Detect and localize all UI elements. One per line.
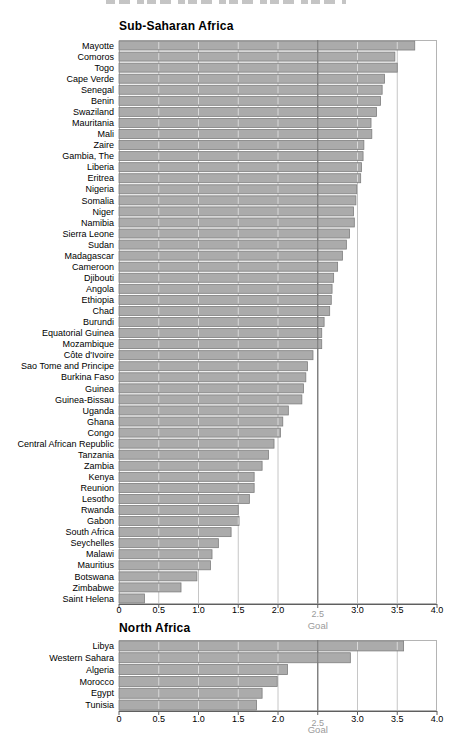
category-label: Senegal: [81, 85, 114, 95]
bar: [119, 41, 415, 50]
bar: [119, 340, 322, 349]
category-label: Rwanda: [81, 505, 114, 515]
bar: [119, 273, 334, 282]
goal-label: Goal: [308, 620, 328, 631]
category-label: Tunisia: [85, 700, 114, 710]
x-tick-label: 1.0: [192, 714, 205, 724]
x-tick-label: 2.0: [272, 714, 285, 724]
category-label: Seychelles: [70, 538, 114, 548]
category-label: Mauritius: [77, 560, 114, 570]
bar: [119, 130, 372, 139]
category-label: Western Sahara: [49, 653, 114, 663]
bar: [119, 494, 249, 503]
bar: [119, 362, 307, 371]
bar: [119, 561, 210, 570]
x-tick-label: 0: [116, 714, 121, 724]
category-label: Mayotte: [82, 41, 114, 51]
x-tick-label: 3.0: [351, 605, 364, 615]
bar: [119, 450, 268, 459]
bar: [119, 528, 231, 537]
goal-label: Goal: [308, 724, 328, 735]
x-tick-label: 3.5: [391, 605, 404, 615]
bar: [119, 251, 342, 260]
category-label: Libya: [92, 641, 114, 651]
bar: [119, 118, 371, 127]
category-label: Central African Republic: [17, 439, 114, 449]
category-label: Benin: [91, 96, 114, 106]
category-label: Ghana: [87, 417, 114, 427]
bar: [119, 163, 361, 172]
bar: [119, 641, 404, 651]
bar: [119, 63, 397, 72]
category-label: Equatorial Guinea: [42, 328, 114, 338]
bar: [119, 240, 346, 249]
category-label: Algeria: [86, 665, 114, 675]
category-label: Angola: [86, 284, 114, 294]
x-tick-label: 0: [116, 605, 121, 615]
category-label: Cape Verde: [66, 74, 114, 84]
category-label: Botswana: [74, 572, 114, 582]
category-label: Morocco: [79, 677, 114, 687]
category-label: Eritrea: [87, 173, 114, 183]
bar: [119, 96, 381, 105]
bar: [119, 483, 254, 492]
category-label: Congo: [87, 428, 114, 438]
x-tick-label: 3.5: [391, 714, 404, 724]
bar: [119, 306, 330, 315]
x-tick-label: 2.0: [272, 605, 285, 615]
x-tick-label: 0.5: [152, 714, 165, 724]
cropped-title-fragment: [106, 0, 346, 4]
category-label: Zimbabwe: [72, 583, 114, 593]
category-label: Burkina Faso: [61, 372, 114, 382]
category-label: Egypt: [91, 688, 115, 698]
category-label: Somalia: [81, 196, 114, 206]
bar: [119, 141, 364, 150]
category-label: Zaire: [93, 140, 114, 150]
category-label: Mali: [97, 129, 114, 139]
bar: [119, 384, 303, 393]
bar: [119, 572, 197, 581]
x-tick-label: 0.5: [152, 605, 165, 615]
category-label: Nigeria: [85, 184, 114, 194]
bar: [119, 395, 302, 404]
bar: [119, 52, 395, 61]
bar: [119, 174, 361, 183]
category-label: Chad: [92, 306, 114, 316]
bar: [119, 439, 274, 448]
bar: [119, 329, 322, 338]
category-label: Cameroon: [72, 262, 114, 272]
x-tick-label: 4.0: [431, 605, 444, 615]
bar: [119, 417, 283, 426]
bar: [119, 351, 313, 360]
category-label: Sudan: [88, 240, 114, 250]
x-tick-label: 1.0: [192, 605, 205, 615]
category-label: Saint Helena: [62, 594, 114, 604]
bar: [119, 406, 288, 415]
x-tick-label: 3.0: [351, 714, 364, 724]
bar: [119, 517, 239, 526]
category-label: Namibia: [81, 218, 114, 228]
category-label: Djibouti: [84, 273, 114, 283]
bar: [119, 583, 181, 592]
category-label: Malawi: [86, 549, 114, 559]
category-label: South Africa: [65, 527, 114, 537]
bar: [119, 461, 262, 470]
bar: [119, 152, 363, 161]
category-label: Burundi: [83, 317, 114, 327]
ssa-bar-chart: MayotteComorosTogoCape VerdeSenegalBenin…: [0, 36, 449, 636]
bar: [119, 472, 254, 481]
category-label: Comoros: [77, 52, 114, 62]
category-label: Reunion: [80, 483, 114, 493]
bar: [119, 700, 257, 710]
bar: [119, 196, 356, 205]
bar: [119, 665, 288, 675]
category-label: Mozambique: [62, 339, 114, 349]
bar: [119, 284, 332, 293]
bar: [119, 506, 238, 515]
category-label: Kenya: [88, 472, 114, 482]
category-label: Togo: [94, 63, 114, 73]
category-label: Gambia, The: [62, 151, 114, 161]
category-label: Ethiopia: [81, 295, 114, 305]
bar: [119, 262, 338, 271]
bar: [119, 295, 331, 304]
